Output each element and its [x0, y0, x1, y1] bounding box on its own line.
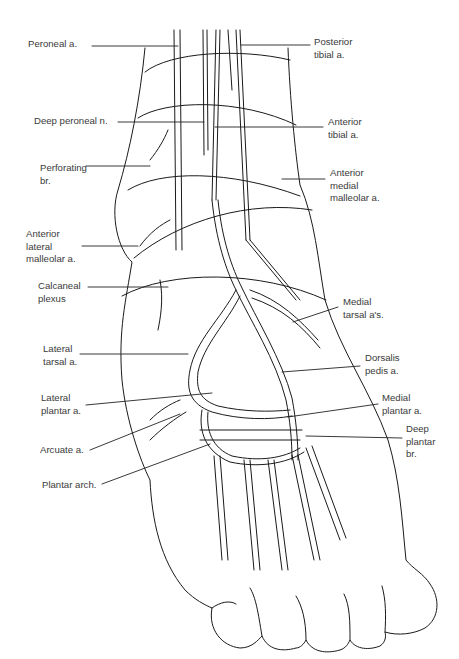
dorsalis-pedis-artery: [212, 200, 298, 460]
foot-artery-diagram: Peroneal a.Deep peroneal n.Perforating b…: [0, 0, 459, 659]
foot-outline: [115, 48, 437, 652]
label-anterior-tibial-a: Anterior tibial a.: [328, 116, 362, 141]
label-deep-peroneal-n: Deep peroneal n.: [34, 115, 108, 128]
leader-dorsalis-pedis-a: [282, 366, 360, 372]
label-peroneal-a: Peroneal a.: [28, 38, 77, 51]
label-anterior-medial-malleolar-a: Anterior medial malleolar a.: [330, 167, 380, 205]
arch-cross-lines: [200, 430, 302, 440]
label-plantar-arch: Plantar arch.: [42, 479, 96, 492]
label-perforating-br: Perforating br.: [40, 162, 87, 187]
leader-medial-tarsal-as: [293, 307, 338, 322]
leader-arcuate-a: [90, 414, 180, 450]
foot-illustration: [0, 0, 459, 659]
label-lateral-plantar-a: Lateral plantar a.: [41, 392, 81, 417]
extensor-retinaculum: [122, 53, 326, 300]
label-anterior-lateral-malleolar-a: Anterior lateral malleolar a.: [26, 228, 76, 266]
metatarsal-arteries: [214, 446, 346, 570]
leader-deep-plantar-br: [306, 436, 402, 438]
label-lateral-tarsal-a: Lateral tarsal a.: [43, 343, 77, 368]
leader-plantar-arch: [102, 444, 210, 484]
leader-medial-plantar-a: [288, 404, 378, 417]
label-medial-plantar-a: Medial plantar a.: [382, 392, 422, 417]
label-deep-plantar-br: Deep plantar br.: [406, 423, 435, 461]
toe-divisions: [212, 586, 386, 640]
label-arcuate-a: Arcuate a.: [40, 444, 84, 457]
label-posterior-tibial-a: Posterior tibial a.: [314, 36, 352, 61]
label-medial-tarsal-as: Medial tarsal a's.: [343, 296, 384, 321]
label-calcaneal-plexus: Calcaneal plexus: [38, 280, 81, 305]
label-dorsalis-pedis-a: Dorsalis pedis a.: [365, 352, 400, 377]
